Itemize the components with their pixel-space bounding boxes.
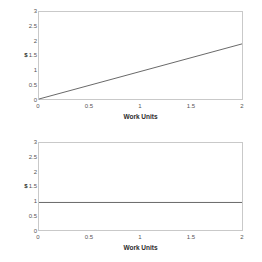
two-panel-line-chart-figure: 3 2.5 2 $1.5 1 0.5 0 0 0.5 1 1.5 2 Work …: [0, 0, 262, 262]
x-tick-label-0p5: 0.5: [85, 103, 93, 110]
x-tick-label-2: 2: [240, 234, 243, 241]
y-tick-label-1p5-value: 1.5: [29, 183, 37, 189]
x-tick-label-1p5: 1.5: [187, 234, 195, 241]
chart-panel-top: 3 2.5 2 $1.5 1 0.5 0 0 0.5 1 1.5 2 Work …: [0, 0, 262, 131]
x-tick-label-1p5: 1.5: [187, 103, 195, 110]
x-tick-label-0p5: 0.5: [85, 234, 93, 241]
y-tick-label-1p5: $1.5: [1, 52, 37, 58]
currency-symbol: $: [24, 183, 27, 189]
plot-lines-top: [39, 12, 242, 99]
currency-symbol: $: [24, 52, 27, 58]
y-tick-label-2p5: 2.5: [1, 154, 37, 160]
y-tick-label-0p5: 0.5: [1, 213, 37, 219]
plot-area-bottom: [38, 142, 243, 231]
x-tick-label-0: 0: [36, 103, 39, 110]
x-tick-label-1: 1: [138, 103, 141, 110]
y-tick-label-0p5: 0.5: [1, 82, 37, 88]
y-tick-label-1p5-value: 1.5: [29, 52, 37, 58]
x-axis-title-top: Work Units: [38, 113, 243, 121]
chart-panel-bottom: 3 2.5 2 $1.5 1 0.5 0 0 0.5 1 1.5 2 Work …: [0, 131, 262, 262]
x-axis-bottom: 0 0.5 1 1.5 2: [0, 234, 262, 244]
y-tick-label-1: 1: [1, 198, 37, 204]
series-line-total-cost: [39, 44, 242, 99]
y-tick-label-3: 3: [1, 139, 37, 145]
x-tick-label-2: 2: [240, 103, 243, 110]
x-axis-title-bottom: Work Units: [38, 244, 243, 252]
x-tick-label-1: 1: [138, 234, 141, 241]
x-tick-label-0: 0: [36, 234, 39, 241]
y-tick-label-1p5: $1.5: [1, 183, 37, 189]
y-tick-label-1: 1: [1, 67, 37, 73]
y-tick-label-2: 2: [1, 169, 37, 175]
y-tick-label-2p5: 2.5: [1, 23, 37, 29]
plot-area-top: [38, 11, 243, 100]
y-tick-label-2: 2: [1, 38, 37, 44]
y-tick-label-3: 3: [1, 8, 37, 14]
x-axis-top: 0 0.5 1 1.5 2: [0, 103, 262, 113]
plot-lines-bottom: [39, 143, 242, 230]
